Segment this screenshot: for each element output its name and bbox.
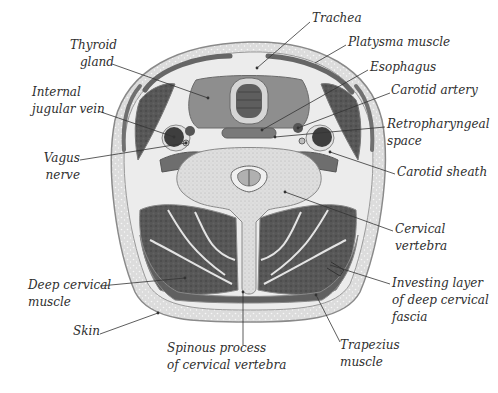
label-deep-cervical-muscle: Deep cervical muscle bbox=[28, 277, 111, 311]
label-skin: Skin bbox=[73, 323, 100, 340]
label-carotid-artery: Carotid artery bbox=[391, 82, 478, 99]
label-internal-jugular-vein: Internal jugular vein bbox=[32, 84, 105, 118]
label-retropharyngeal-space: Retropharyngeal space bbox=[387, 116, 490, 150]
esophagus-shape bbox=[222, 128, 276, 138]
label-cervical-vertebra: Cervical vertebra bbox=[395, 221, 447, 255]
label-esophagus: Esophagus bbox=[370, 59, 436, 76]
label-trachea: Trachea bbox=[312, 10, 362, 27]
label-trapezius-muscle: Trapezius muscle bbox=[340, 337, 400, 371]
label-investing-layer: Investing layer of deep cervical fascia bbox=[392, 275, 489, 326]
label-thyroid-gland: Thyroid gland bbox=[70, 37, 114, 71]
trachea-shape bbox=[230, 78, 268, 124]
label-platysma-muscle: Platysma muscle bbox=[348, 34, 450, 51]
label-vagus-nerve: Vagus nerve bbox=[36, 150, 80, 184]
label-carotid-sheath: Carotid sheath bbox=[397, 164, 487, 181]
label-spinous-process: Spinous process of cervical vertebra bbox=[167, 340, 286, 374]
